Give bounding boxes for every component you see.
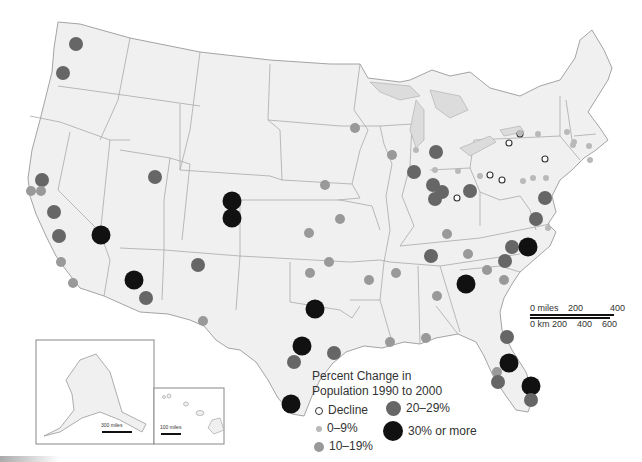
city-marker-10-19 <box>324 257 334 267</box>
city-marker-20-29 <box>498 254 512 268</box>
city-marker-0-9 <box>543 175 549 181</box>
legend-label: 10–19% <box>329 439 373 454</box>
city-marker-20-29 <box>69 37 83 51</box>
city-marker-0-9 <box>545 225 551 231</box>
xlarge-circle-icon <box>383 421 403 441</box>
legend-title-line1: Percent Change in <box>312 369 502 384</box>
city-marker-20-29 <box>505 240 519 254</box>
city-marker-10-19 <box>499 275 509 285</box>
city-marker-30+ <box>306 300 325 319</box>
city-marker-decline <box>487 172 493 178</box>
city-marker-30+ <box>92 226 111 245</box>
city-marker-decline <box>542 156 548 162</box>
city-marker-decline <box>454 195 460 201</box>
city-marker-20-29 <box>56 66 70 80</box>
city-marker-10-19 <box>36 186 46 196</box>
city-marker-0-9 <box>517 130 523 136</box>
city-marker-30+ <box>522 377 541 396</box>
city-marker-20-29 <box>429 145 443 159</box>
legend-label: 0–9% <box>327 421 358 436</box>
city-marker-10-19 <box>442 229 452 239</box>
city-marker-0-9 <box>564 129 570 135</box>
city-marker-10-19 <box>421 333 431 343</box>
city-marker-20-29 <box>148 170 162 184</box>
legend-items: Decline 0–9% 10–19% 20–29% 30% or more <box>312 401 502 461</box>
city-marker-0-9 <box>477 173 483 179</box>
city-marker-10-19 <box>26 186 36 196</box>
city-marker-10-19 <box>482 265 492 275</box>
city-marker-0-9 <box>570 142 576 148</box>
city-marker-20-29 <box>424 249 438 263</box>
city-marker-10-19 <box>68 278 78 288</box>
scale-bar: 0 miles 200 400 0 km 200 400 600 <box>530 303 640 329</box>
city-marker-10-19 <box>432 291 442 301</box>
legend-item-decline: Decline <box>312 403 368 418</box>
city-marker-decline <box>506 140 512 146</box>
city-marker-decline <box>499 177 505 183</box>
city-marker-20-29 <box>52 229 66 243</box>
city-marker-10-19 <box>350 123 360 133</box>
city-marker-20-29 <box>500 330 514 344</box>
city-marker-30+ <box>282 395 301 414</box>
city-marker-20-29 <box>407 165 421 179</box>
legend-label: Decline <box>328 403 368 418</box>
scale-miles-labels: 0 miles 200 400 <box>530 303 640 313</box>
legend-item-20-29: 20–29% <box>386 401 450 416</box>
city-marker-20-29 <box>538 191 552 205</box>
legend-item-0-9: 0–9% <box>312 421 358 436</box>
city-marker-20-29 <box>428 192 442 206</box>
city-marker-10-19 <box>56 257 66 267</box>
city-marker-10-19 <box>305 268 315 278</box>
city-marker-20-29 <box>35 173 49 187</box>
city-marker-10-19 <box>320 180 330 190</box>
city-marker-20-29 <box>287 355 301 369</box>
medium-circle-icon <box>314 442 324 452</box>
city-marker-30+ <box>519 238 538 257</box>
city-marker-30+ <box>223 209 242 228</box>
city-marker-10-19 <box>304 228 314 238</box>
city-marker-10-19 <box>463 249 473 259</box>
city-marker-30+ <box>125 271 144 290</box>
city-marker-0-9 <box>413 147 419 153</box>
city-marker-20-29 <box>139 291 153 305</box>
city-marker-30+ <box>223 192 242 211</box>
city-marker-10-19 <box>385 337 395 347</box>
hawaii-inset <box>154 388 224 444</box>
large-circle-icon <box>386 401 401 416</box>
city-marker-0-9 <box>586 143 592 149</box>
city-marker-10-19 <box>387 150 397 160</box>
legend-title-line2: Population 1990 to 2000 <box>312 384 502 399</box>
city-marker-20-29 <box>529 212 543 226</box>
city-marker-0-9 <box>587 157 593 163</box>
hollow-circle-icon <box>315 407 323 415</box>
city-marker-10-19 <box>335 214 345 224</box>
alaska-inset <box>36 340 154 444</box>
city-marker-0-9 <box>432 167 438 173</box>
city-marker-10-19 <box>198 316 208 326</box>
city-marker-0-9 <box>520 178 526 184</box>
city-marker-30+ <box>457 275 476 294</box>
legend: Percent Change in Population 1990 to 200… <box>312 369 502 461</box>
city-marker-30+ <box>293 337 312 356</box>
city-marker-30+ <box>500 354 519 373</box>
city-marker-20-29 <box>524 393 538 407</box>
legend-label: 30% or more <box>408 424 477 439</box>
legend-item-30-plus: 30% or more <box>383 421 477 441</box>
legend-label: 20–29% <box>406 401 450 416</box>
alaska-scale-label: 300 miles <box>101 422 122 428</box>
city-marker-0-9 <box>455 168 461 174</box>
city-marker-0-9 <box>530 175 536 181</box>
city-marker-20-29 <box>463 184 477 198</box>
legend-item-10-19: 10–19% <box>312 439 373 454</box>
city-marker-20-29 <box>47 205 61 219</box>
city-marker-0-9 <box>535 131 541 137</box>
bottom-edge-shadow <box>0 456 60 462</box>
city-marker-10-19 <box>391 268 401 278</box>
city-marker-10-19 <box>364 275 374 285</box>
scale-km-labels: 0 km 200 400 600 <box>530 319 640 329</box>
city-marker-20-29 <box>327 346 341 360</box>
city-marker-20-29 <box>191 258 205 272</box>
small-circle-icon <box>316 426 322 432</box>
hawaii-scale-label: 100 miles <box>160 424 181 430</box>
